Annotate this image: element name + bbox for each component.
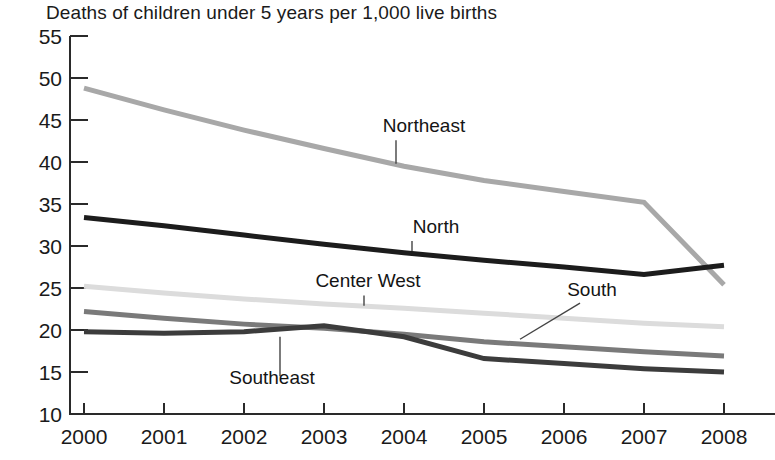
series-label-northeast: Northeast <box>383 115 466 136</box>
annotation-leaders <box>280 140 580 376</box>
y-axis-tick-label: 25 <box>39 277 62 300</box>
y-axis-tick-label: 35 <box>39 193 62 216</box>
line-chart: 10152025303540455055 2000200120022003200… <box>0 0 775 460</box>
x-axis-tick-label: 2003 <box>301 425 348 448</box>
y-axis-tick-label: 20 <box>39 319 62 342</box>
series-label-north: North <box>413 216 459 237</box>
x-axis-tick-label: 2008 <box>701 425 748 448</box>
y-axis-tick-label: 40 <box>39 151 62 174</box>
series-label-southeast: Southeast <box>229 367 315 388</box>
y-axis-tick-label: 30 <box>39 235 62 258</box>
series-label-south: South <box>567 279 617 300</box>
chart-container: Deaths of children under 5 years per 1,0… <box>0 0 775 460</box>
y-axis-ticks: 10152025303540455055 <box>39 25 88 426</box>
x-axis-tick-label: 2006 <box>541 425 588 448</box>
y-axis-tick-label: 50 <box>39 67 62 90</box>
x-axis-ticks: 200020012002200320042005200620072008 <box>61 403 748 448</box>
y-axis-tick-label: 45 <box>39 109 62 132</box>
x-axis-tick-label: 2007 <box>621 425 668 448</box>
x-axis-tick-label: 2001 <box>141 425 188 448</box>
x-axis-tick-label: 2000 <box>61 425 108 448</box>
y-axis-tick-label: 55 <box>39 25 62 48</box>
y-axis-tick-label: 15 <box>39 361 62 384</box>
series-line-north <box>84 217 724 274</box>
x-axis-tick-label: 2002 <box>221 425 268 448</box>
y-axis-tick-label: 10 <box>39 403 62 426</box>
x-axis-tick-label: 2005 <box>461 425 508 448</box>
x-axis-tick-label: 2004 <box>381 425 428 448</box>
series-label-center-west: Center West <box>315 270 421 291</box>
